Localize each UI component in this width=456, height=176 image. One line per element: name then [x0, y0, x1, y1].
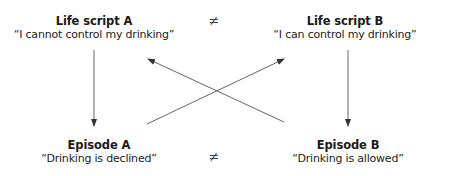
- arrows-layer: [0, 0, 456, 176]
- arrow-episode-a-to-life-script-b: [147, 59, 284, 124]
